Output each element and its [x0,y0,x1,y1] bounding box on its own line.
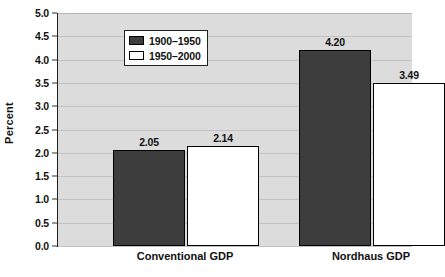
gridline [58,36,412,37]
y-axis-tick-label: 0.5 [35,217,49,229]
legend-item-label: 1900–1950 [149,35,201,47]
bar-value-label: 2.14 [213,132,233,144]
y-axis-tick-label: 2.0 [35,147,49,159]
x-axis-category-label: Nordhaus GDP [332,250,410,262]
legend-swatch-icon [129,51,144,60]
bar: 2.14 [187,146,259,246]
legend-item-label: 1950–2000 [149,50,201,62]
bar-value-label: 4.20 [325,36,345,48]
y-axis-tick-label: 4.0 [35,54,49,66]
gridline [58,246,412,247]
bar-value-label: 3.49 [399,69,419,81]
y-axis-tick-label: 3.0 [35,100,49,112]
y-axis-title: Percent [0,0,18,246]
gridline [58,13,412,14]
bar: 2.05 [113,150,185,246]
bar: 4.20 [299,50,371,246]
bar-value-label: 2.05 [139,136,159,148]
y-axis-title-text: Percent [3,102,15,144]
bar: 3.49 [373,83,445,246]
plot-area: 2.052.144.203.49 1900–1950 1950–2000 [57,13,412,247]
legend-swatch-icon [129,36,144,45]
y-axis-tick-label: 2.5 [35,124,49,136]
y-axis-tick-label: 0.0 [35,240,49,252]
y-axis-tick-label: 1.5 [35,170,49,182]
y-axis-tick-label: 5.0 [35,7,49,19]
y-axis-tick-labels: 5.04.54.03.53.02.52.01.51.00.50.0 [18,13,52,246]
y-axis-tick-label: 4.5 [35,30,49,42]
x-axis-category-labels: Conventional GDPNordhaus GDP [57,250,411,270]
legend-item: 1900–1950 [129,34,201,47]
legend: 1900–1950 1950–2000 [124,30,208,66]
y-axis-tick-label: 1.0 [35,193,49,205]
y-axis-tick-label: 3.5 [35,77,49,89]
x-axis-category-label: Conventional GDP [137,250,234,262]
legend-item: 1950–2000 [129,49,201,62]
